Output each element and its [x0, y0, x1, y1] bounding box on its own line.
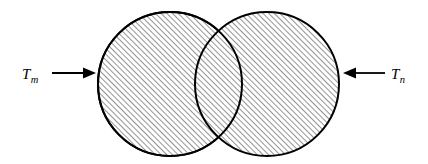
right-label-subscript: n: [400, 74, 405, 85]
left-label-subscript: m: [31, 74, 39, 85]
right-circle: [195, 12, 339, 156]
overlapping-circles-diagram: Tm Tn: [0, 0, 428, 164]
figure-container: Tm Tn: [0, 0, 428, 164]
